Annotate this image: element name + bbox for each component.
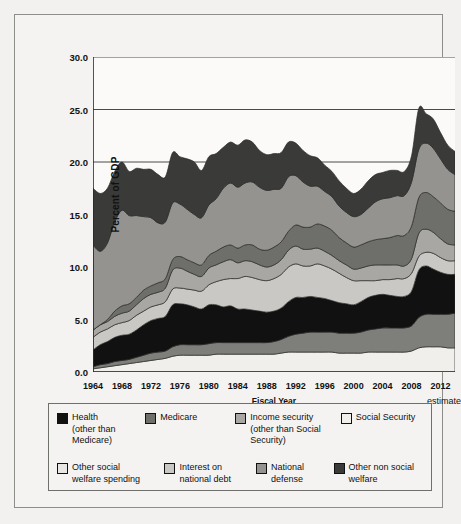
legend-item-label: Social Security bbox=[356, 412, 416, 424]
legend-item: National defense bbox=[256, 462, 334, 485]
legend-swatch-social-security bbox=[341, 413, 352, 424]
legend-item-label: Other non social welfare bbox=[349, 462, 415, 485]
legend-item: Health (other than Medicare) bbox=[57, 412, 145, 447]
legend-row-2: Other social welfare spendingInterest on… bbox=[57, 462, 425, 488]
y-tick-label: 5.0 bbox=[75, 314, 88, 325]
legend-row-1: Health (other than Medicare)MedicareInco… bbox=[57, 412, 425, 460]
y-tick-label: 10.0 bbox=[70, 262, 89, 273]
y-tick-label: 15.0 bbox=[70, 209, 89, 220]
legend-swatch-other-social-welfare bbox=[57, 463, 68, 474]
y-tick-label: 30.0 bbox=[70, 52, 89, 63]
plot-area: Percent of GDP 0.05.010.015.020.025.030.… bbox=[93, 57, 455, 372]
legend-swatch-income-security bbox=[235, 413, 246, 424]
legend-item: Social Security bbox=[341, 412, 425, 424]
x-tick-label: 1964 bbox=[83, 381, 103, 391]
x-tick-label: 1996 bbox=[315, 381, 335, 391]
x-tick-label: 2008 bbox=[402, 381, 422, 391]
legend-item-label: Income security (other than Social Secur… bbox=[250, 412, 321, 447]
legend-item: Medicare bbox=[145, 412, 235, 424]
legend-item-label: Interest on national debt bbox=[179, 462, 231, 485]
y-tick-label: 25.0 bbox=[70, 104, 89, 115]
legend-item-label: National defense bbox=[271, 462, 304, 485]
legend-swatch-national-defense bbox=[256, 463, 267, 474]
legend-item-label: Medicare bbox=[160, 412, 197, 424]
x-tick-label: 1992 bbox=[286, 381, 306, 391]
legend-item: Other non social welfare bbox=[334, 462, 426, 485]
legend-item: Other social welfare spending bbox=[57, 462, 164, 485]
y-tick-label: 20.0 bbox=[70, 157, 89, 168]
stacked-area-chart bbox=[93, 57, 455, 372]
y-axis-title: Percent of GDP bbox=[110, 125, 121, 265]
x-tick-label: 1976 bbox=[170, 381, 190, 391]
legend-swatch-other-non-social-welfare bbox=[334, 463, 345, 474]
x-tick-label: 1980 bbox=[199, 381, 219, 391]
x-tick-label: 2004 bbox=[373, 381, 393, 391]
legend-item-label: Other social welfare spending bbox=[72, 462, 140, 485]
x-tick-label: 2012 bbox=[431, 381, 451, 391]
legend-item: Income security (other than Social Secur… bbox=[235, 412, 340, 447]
legend-item-label: Health (other than Medicare) bbox=[72, 412, 116, 447]
x-tick-label: 1968 bbox=[112, 381, 132, 391]
legend-swatch-interest-debt bbox=[164, 463, 175, 474]
estimate-annotation: estimate bbox=[427, 396, 461, 406]
x-tick-label: 1984 bbox=[228, 381, 248, 391]
y-tick-label: 0.0 bbox=[75, 367, 88, 378]
x-tick-label: 1988 bbox=[257, 381, 277, 391]
x-tick-label: 1972 bbox=[141, 381, 161, 391]
legend-swatch-health bbox=[57, 413, 68, 424]
chart-legend: Health (other than Medicare)MedicareInco… bbox=[48, 403, 432, 491]
legend-item: Interest on national debt bbox=[164, 462, 256, 485]
legend-swatch-medicare bbox=[145, 413, 156, 424]
x-tick-label: 2000 bbox=[344, 381, 364, 391]
